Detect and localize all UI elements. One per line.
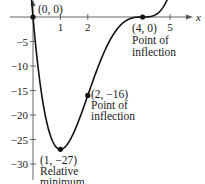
y-tick-label: −20 bbox=[11, 109, 29, 121]
annotation-inflection-2: (2, −16) Point of inflection bbox=[91, 88, 135, 122]
annotation-origin: (0, 0) bbox=[38, 3, 63, 16]
chart: x 125 −5−10−15−20−25−30 (0, 0) (1, −27) … bbox=[0, 0, 205, 184]
y-tick-label: −30 bbox=[11, 158, 29, 170]
x-axis-label: x bbox=[195, 11, 201, 23]
annotation-infl4-line2: inflection bbox=[132, 46, 176, 58]
key-point-marker bbox=[58, 147, 63, 152]
annotation-min-line2: minimum bbox=[40, 176, 85, 184]
key-point-marker bbox=[30, 14, 35, 19]
key-point-marker bbox=[85, 93, 90, 98]
x-tick-label: 2 bbox=[85, 21, 91, 33]
x-tick-label: 5 bbox=[167, 21, 173, 33]
key-point-marker bbox=[140, 14, 145, 19]
y-ticks: −5−10−15−20−25−30 bbox=[11, 36, 36, 171]
annotation-infl2-line2: inflection bbox=[91, 110, 135, 122]
annotation-infl4-line1: Point of bbox=[132, 34, 169, 46]
annotation-relative-minimum: (1, −27) Relative minimum bbox=[40, 154, 85, 184]
annotation-origin-coords: (0, 0) bbox=[38, 3, 63, 16]
x-axis-arrow-icon bbox=[186, 15, 193, 20]
y-tick-label: −10 bbox=[11, 60, 29, 72]
key-points bbox=[30, 14, 145, 152]
y-tick-label: −15 bbox=[11, 85, 29, 97]
y-tick-label: −5 bbox=[16, 36, 28, 48]
x-tick-label: 1 bbox=[58, 21, 64, 33]
y-tick-label: −25 bbox=[11, 134, 29, 146]
